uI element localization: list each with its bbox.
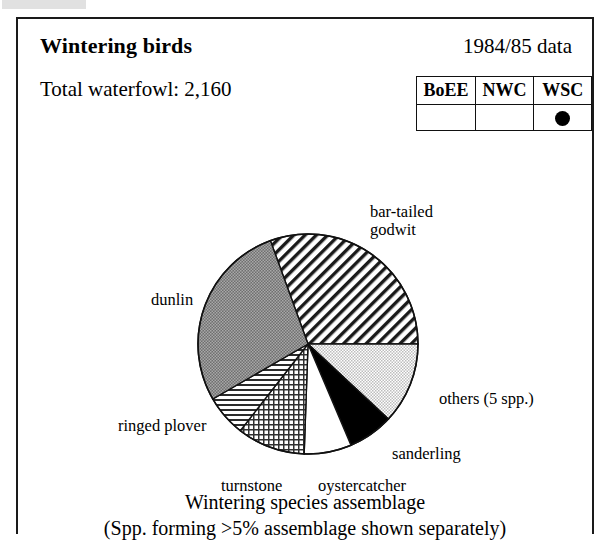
pie-chart [183,219,433,469]
page-title: Wintering birds [40,33,192,59]
pie-label-dunlin: dunlin [151,291,193,309]
figure-panel: Wintering birds 1984/85 data Total water… [16,17,594,534]
pie-slice-group [198,234,418,454]
panel-header: Wintering birds 1984/85 data Total water… [18,19,592,83]
pie-label-sanderling: sanderling [392,445,461,463]
caption-line-1: Wintering species assemblage [18,489,592,515]
pie-label-ringed-plover: ringed plover [118,417,206,435]
data-year-label: 1984/85 data [463,34,572,59]
figure-caption: Wintering species assemblage (Spp. formi… [18,489,592,542]
pie-chart-area: bar-tailed godwit others (5 spp.) sander… [18,99,592,479]
caption-line-2: (Spp. forming >5% assemblage shown separ… [18,515,592,541]
pie-label-others: others (5 spp.) [439,390,534,408]
pie-label-bar-tailed-godwit: bar-tailed godwit [370,203,433,239]
scan-artifact [2,0,86,9]
